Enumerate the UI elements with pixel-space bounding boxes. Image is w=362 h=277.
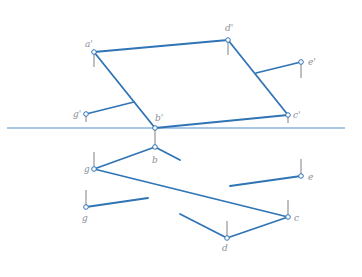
point-g1 bbox=[84, 112, 89, 117]
point-c1 bbox=[286, 113, 291, 118]
point-g bbox=[84, 205, 89, 210]
line-e1 bbox=[256, 62, 301, 73]
edge-a-c bbox=[94, 169, 288, 217]
edge-a1-d1 bbox=[94, 40, 228, 52]
point-d1 bbox=[226, 38, 231, 43]
line-e bbox=[230, 176, 301, 186]
label-d1: d' bbox=[225, 23, 233, 33]
label-a1: a' bbox=[85, 39, 93, 49]
point-e1 bbox=[299, 60, 304, 65]
projection-diagram: a' d' e' c' b' g' b g g e c d bbox=[0, 0, 362, 277]
label-g1: g' bbox=[73, 109, 81, 119]
label-e: e bbox=[308, 172, 313, 182]
label-d: d bbox=[222, 243, 228, 253]
edge-c1-b1 bbox=[155, 115, 288, 128]
point-b1 bbox=[153, 126, 158, 131]
label-g: g bbox=[82, 213, 88, 223]
point-e bbox=[299, 174, 304, 179]
edge-c-d bbox=[227, 217, 288, 238]
top-view-plane: b g g e c d bbox=[82, 145, 313, 253]
label-e1: e' bbox=[308, 57, 316, 67]
point-d bbox=[225, 236, 230, 241]
edge-b-c-upper bbox=[155, 147, 180, 160]
edge-d-lower bbox=[180, 214, 227, 238]
label-c: c bbox=[294, 213, 299, 223]
label-b: b bbox=[152, 155, 158, 165]
point-b bbox=[153, 145, 158, 150]
line-g bbox=[86, 198, 148, 207]
label-a: g bbox=[84, 164, 90, 174]
line-g1 bbox=[86, 102, 134, 114]
label-b1: b' bbox=[155, 113, 163, 123]
edge-b1-a1 bbox=[94, 52, 155, 128]
edge-b-a bbox=[94, 147, 155, 169]
front-view-plane: a' d' e' c' b' g' bbox=[73, 23, 316, 130]
label-c1: c' bbox=[293, 110, 301, 120]
edge-d1-c1 bbox=[228, 40, 288, 115]
point-a bbox=[92, 167, 97, 172]
point-a1 bbox=[92, 50, 97, 55]
point-c bbox=[286, 215, 291, 220]
